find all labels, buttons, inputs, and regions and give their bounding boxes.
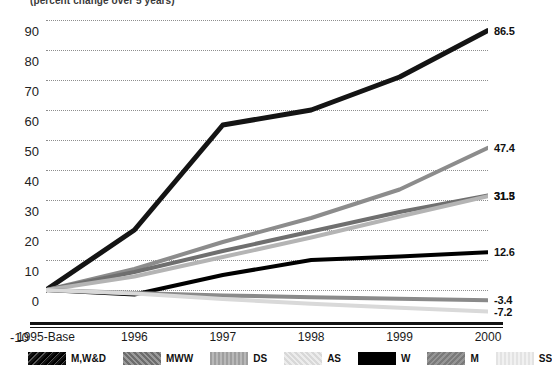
legend-item-m[interactable]: M xyxy=(427,352,478,365)
legend-label: M,W&D xyxy=(71,353,106,364)
legend-swatch-icon xyxy=(210,352,248,365)
end-label-ds: 31.3 xyxy=(494,190,515,202)
y-axis-tick: 80 xyxy=(25,54,39,69)
y-axis-tick: 50 xyxy=(25,144,39,159)
legend-item-m-w-d[interactable]: M,W&D xyxy=(28,352,106,365)
chart-subtitle: (percent change over 5 years) xyxy=(30,0,175,8)
x-axis-rule xyxy=(30,322,503,325)
legend-label: AS xyxy=(327,353,341,364)
legend-label: MWW xyxy=(166,353,193,364)
legend-swatch-icon xyxy=(358,352,396,365)
legend-label: W xyxy=(401,353,410,364)
x-axis-rule-thin xyxy=(30,327,503,328)
legend-item-ds[interactable]: DS xyxy=(210,352,267,365)
legend-swatch-icon xyxy=(123,352,161,365)
series-lines xyxy=(46,20,488,320)
legend-item-ss[interactable]: SS xyxy=(496,352,552,365)
y-axis-tick: 10 xyxy=(25,264,39,279)
chart-legend: M,W&DMWWDSASWMSS xyxy=(28,352,508,365)
x-axis-tick: 1998 xyxy=(298,330,325,344)
legend-item-as[interactable]: AS xyxy=(284,352,341,365)
end-label-mwd: 86.5 xyxy=(494,25,515,37)
y-axis-tick: 30 xyxy=(25,204,39,219)
legend-swatch-icon xyxy=(496,352,534,365)
legend-label: M xyxy=(470,353,478,364)
y-axis-tick: 70 xyxy=(25,84,39,99)
legend-label: SS xyxy=(539,353,552,364)
legend-item-w[interactable]: W xyxy=(358,352,410,365)
legend-swatch-icon xyxy=(284,352,322,365)
y-axis-tick: 60 xyxy=(25,114,39,129)
y-axis-tick: 0 xyxy=(32,294,39,309)
legend-swatch-icon xyxy=(28,352,66,365)
legend-item-mww[interactable]: MWW xyxy=(123,352,193,365)
plot-area: 9080706050403020100 86.547.431.531.312.6… xyxy=(46,20,488,320)
y-axis-tick: 20 xyxy=(25,234,39,249)
legend-label: DS xyxy=(253,353,267,364)
legend-swatch-icon xyxy=(427,352,465,365)
end-label-w: 12.6 xyxy=(494,246,515,258)
x-axis-tick: 2000 xyxy=(475,330,502,344)
end-label-m: -3.4 xyxy=(494,294,512,306)
x-axis-tick: 1999 xyxy=(386,330,413,344)
x-axis-tick: 1996 xyxy=(121,330,148,344)
x-axis-tick: 1997 xyxy=(209,330,236,344)
end-label-ss: -7.2 xyxy=(494,306,512,318)
end-label-as: 47.4 xyxy=(494,142,515,154)
x-axis-tick: 1995-Base xyxy=(17,330,75,344)
y-axis-tick: 40 xyxy=(25,174,39,189)
series-line-m-w-d xyxy=(46,31,488,291)
y-axis-tick: 90 xyxy=(25,24,39,39)
